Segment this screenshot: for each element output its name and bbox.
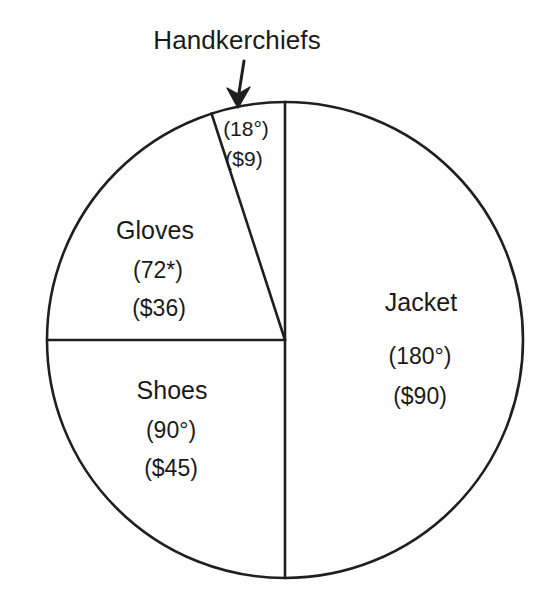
callout-label-handkerchiefs: Handkerchiefs [153,27,321,54]
pie-chart-figure: Handkerchiefs (18°) ($9) Gloves (72*) ($… [0,0,554,606]
slice-name-jacket: Jacket [385,289,457,315]
slice-amount-handkerchiefs: ($9) [225,148,262,170]
arrow-down-icon [227,61,250,108]
slice-angle-shoes: (90°) [146,418,196,442]
slice-angle-handkerchiefs: (18°) [223,118,269,140]
slice-amount-jacket: ($90) [393,384,447,408]
slice-amount-gloves: ($36) [132,296,186,320]
slice-angle-gloves: (72*) [133,258,183,282]
slice-name-gloves: Gloves [116,217,194,243]
slice-name-shoes: Shoes [137,377,208,403]
slice-angle-jacket: (180°) [389,344,452,368]
slice-amount-shoes: ($45) [144,456,198,480]
pie-chart-graphic [0,0,554,606]
